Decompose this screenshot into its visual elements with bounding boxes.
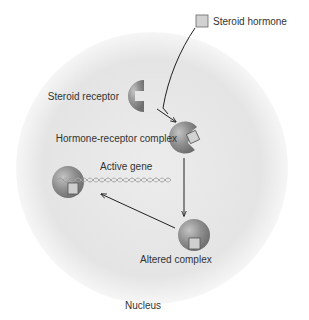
altered-complex-icon [178,219,210,251]
steroid-hormone-label: Steroid hormone [213,16,287,27]
steroid-receptor-label: Steroid receptor [48,91,120,102]
hormone-receptor-complex-label: Hormone-receptor complex [56,133,177,144]
altered-complex-label: Altered complex [140,254,212,265]
active-gene-label: Active gene [100,161,153,172]
steroid-hormone-icon [196,15,208,27]
steroid-hormone-diagram: Steroid hormone Steroid receptor Hormone… [0,0,309,320]
nucleus-label: Nucleus [125,300,161,311]
